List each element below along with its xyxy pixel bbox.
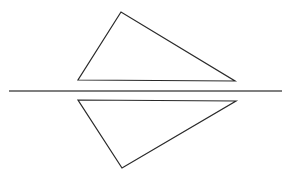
reflection-diagram bbox=[0, 0, 282, 183]
reflected-triangle bbox=[78, 100, 236, 168]
diagram-canvas bbox=[0, 0, 282, 183]
original-triangle bbox=[78, 12, 235, 81]
